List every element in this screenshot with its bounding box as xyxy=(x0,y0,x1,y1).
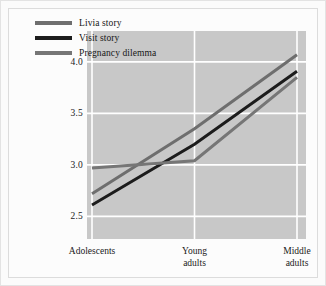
chart-lines-svg xyxy=(87,31,306,239)
legend-line-swatch xyxy=(35,36,72,40)
figure-container: Level of reasoning (Higher score = more … xyxy=(0,0,326,286)
x-axis-tick-label: Middleadults xyxy=(283,245,310,269)
x-axis-tick-label-line: Adolescents xyxy=(69,245,115,257)
chart-legend: Livia storyVisit storyPregnancy dilemma xyxy=(35,15,205,60)
x-axis-tick-label-line: Middle xyxy=(283,245,310,257)
legend-line-swatch xyxy=(35,21,72,25)
y-axis-tick-label: 2.5 xyxy=(57,211,83,221)
legend-item[interactable]: Livia story xyxy=(35,15,205,30)
legend-item[interactable]: Pregnancy dilemma xyxy=(35,45,205,60)
y-axis-tick-labels: 4.03.53.02.5 xyxy=(57,31,83,239)
legend-item-label: Livia story xyxy=(79,18,122,28)
legend-item-label: Pregnancy dilemma xyxy=(79,48,156,58)
x-axis-tick-label: Youngadults xyxy=(182,245,207,269)
legend-item[interactable]: Visit story xyxy=(35,30,205,45)
horizontal-gridlines xyxy=(87,62,306,216)
x-axis-tick-label: Adolescents xyxy=(69,245,115,257)
figure-frame: Level of reasoning (Higher score = more … xyxy=(8,8,318,278)
y-axis-tick-label: 3.5 xyxy=(57,108,83,118)
x-axis-tick-label-line: adults xyxy=(283,257,310,269)
x-axis-tick-label-line: Young xyxy=(182,245,207,257)
legend-line-swatch xyxy=(35,51,72,55)
x-axis-tick-label-line: adults xyxy=(182,257,207,269)
plot-area xyxy=(87,31,306,239)
x-axis-tick-labels: AdolescentsYoungadultsMiddleadults xyxy=(87,245,306,279)
legend-item-label: Visit story xyxy=(79,33,119,43)
y-axis-tick-label: 3.0 xyxy=(57,160,83,170)
